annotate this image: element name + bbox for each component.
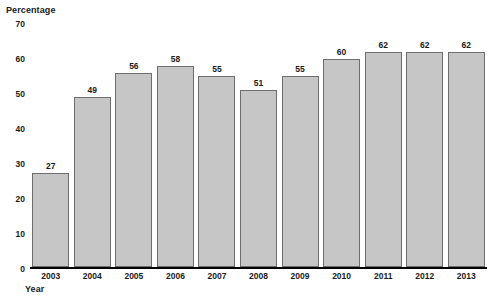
y-axis-title: Percentage: [6, 5, 56, 15]
bar-group: 51: [238, 24, 280, 267]
bar: [282, 76, 319, 267]
bar-value-label: 51: [254, 78, 263, 88]
bar-value-label: 27: [46, 161, 55, 171]
bar-value-label: 60: [337, 47, 346, 57]
bar: [74, 97, 111, 267]
bar-group: 62: [445, 24, 487, 267]
bar-value-label: 62: [462, 40, 471, 50]
bar-series: 2749565855515560626262: [30, 24, 487, 267]
bar-value-label: 62: [378, 40, 387, 50]
x-axis-title: Year: [25, 284, 44, 294]
x-axis-tick-label: 2005: [113, 271, 155, 281]
x-axis-tick-label: 2004: [72, 271, 114, 281]
x-axis-line: [30, 267, 487, 269]
bar-chart: Percentage 010203040506070 2749565855515…: [0, 0, 495, 301]
bar-value-label: 49: [88, 85, 97, 95]
x-axis-tick-label: 2010: [321, 271, 363, 281]
x-axis-tick-container: 2003200420052006200720082009201020112012…: [30, 271, 487, 281]
bar-group: 56: [113, 24, 155, 267]
bar-group: 49: [72, 24, 114, 267]
x-axis-tick-label: 2008: [238, 271, 280, 281]
bar-group: 62: [362, 24, 404, 267]
bar-value-label: 62: [420, 40, 429, 50]
y-axis-tick-label: 70: [16, 19, 25, 29]
bar: [198, 76, 235, 267]
x-axis-tick-label: 2009: [279, 271, 321, 281]
y-axis-tick-label: 20: [16, 194, 25, 204]
x-axis-tick-label: 2007: [196, 271, 238, 281]
y-axis-tick-label: 40: [16, 124, 25, 134]
bar-value-label: 56: [129, 61, 138, 71]
bar-group: 55: [279, 24, 321, 267]
x-axis-tick-label: 2012: [404, 271, 446, 281]
bar: [115, 73, 152, 267]
bar-group: 60: [321, 24, 363, 267]
bar-value-label: 55: [295, 64, 304, 74]
y-axis-tick-label: 10: [16, 229, 25, 239]
bar-value-label: 58: [171, 54, 180, 64]
x-axis-tick-label: 2003: [30, 271, 72, 281]
bar: [240, 90, 277, 267]
bar: [157, 66, 194, 267]
x-axis-tick-label: 2006: [155, 271, 197, 281]
y-axis-tick-label: 60: [16, 54, 25, 64]
y-axis-tick-label: 0: [20, 264, 25, 274]
bar: [32, 173, 69, 267]
bar-group: 55: [196, 24, 238, 267]
bar: [448, 52, 485, 267]
bar: [365, 52, 402, 267]
bar: [323, 59, 360, 267]
x-axis-tick-label: 2013: [445, 271, 487, 281]
x-axis-tick-label: 2011: [362, 271, 404, 281]
bar: [406, 52, 443, 267]
bar-group: 27: [30, 24, 72, 267]
y-axis-tick-label: 50: [16, 89, 25, 99]
bar-group: 62: [404, 24, 446, 267]
y-axis-tick-label: 30: [16, 159, 25, 169]
bar-group: 58: [155, 24, 197, 267]
bar-value-label: 55: [212, 64, 221, 74]
